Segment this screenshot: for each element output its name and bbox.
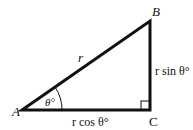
adjacent-side-label: r cos θ° bbox=[72, 115, 109, 129]
angle-label: θ° bbox=[45, 96, 55, 108]
angle-arc bbox=[55, 87, 62, 110]
hypotenuse-label: r bbox=[78, 50, 84, 65]
vertex-c-label: C bbox=[149, 114, 158, 129]
triangle-diagram: A B C r θ° r sin θ° r cos θ° bbox=[0, 0, 193, 130]
vertex-a-label: A bbox=[11, 104, 20, 119]
opposite-side-label: r sin θ° bbox=[155, 64, 190, 78]
triangle bbox=[22, 21, 150, 110]
vertex-b-label: B bbox=[152, 4, 160, 19]
